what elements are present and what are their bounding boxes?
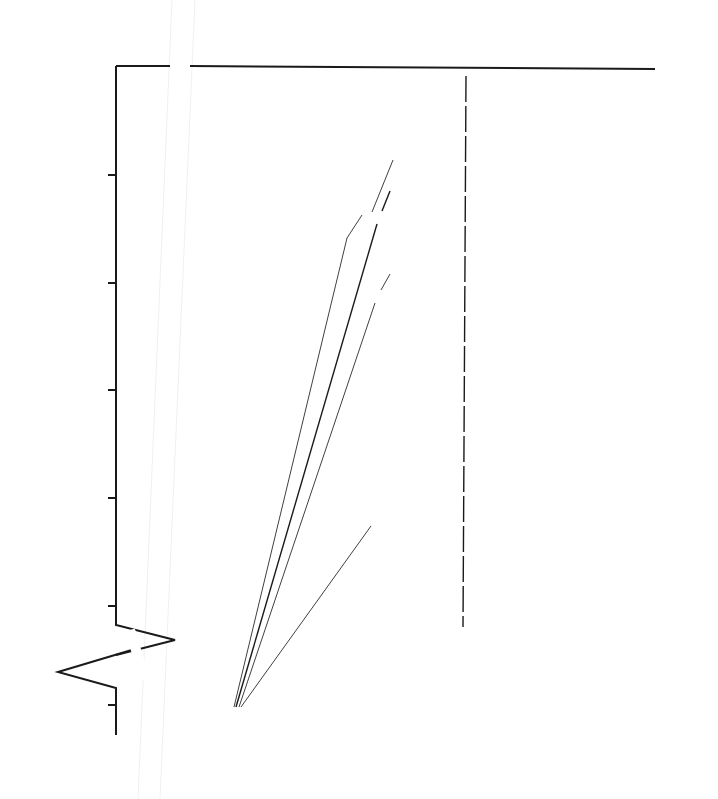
transition-2 — [241, 526, 371, 707]
transition-4-upper — [382, 191, 390, 211]
energy-level-diagram — [0, 0, 718, 799]
transition-3-upper — [381, 274, 390, 290]
transition-5-upper — [372, 160, 393, 212]
transition-3 — [239, 303, 375, 707]
y-axis — [58, 66, 655, 735]
transition-4 — [236, 224, 377, 707]
transitions — [234, 160, 393, 707]
singlet-triplet-separator — [463, 76, 466, 627]
transition-5 — [234, 215, 362, 707]
